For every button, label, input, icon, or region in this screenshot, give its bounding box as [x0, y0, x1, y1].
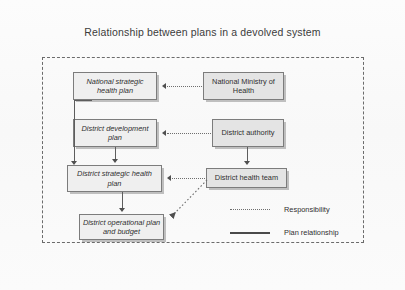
- legend-row-plan-relationship: Plan relationship: [230, 228, 339, 237]
- legend-label-responsibility: Responsibility: [284, 205, 330, 214]
- arrowhead-authority-to-health-team: [244, 161, 250, 165]
- node-label: District health team: [215, 173, 278, 182]
- edge-strategic-to-operational: [122, 192, 123, 208]
- node-district-health-team[interactable]: District health team: [206, 168, 287, 188]
- node-district-strategic-health-plan[interactable]: District strategic health plan: [67, 165, 162, 192]
- legend-row-responsibility: Responsibility: [230, 205, 330, 214]
- solid-line-icon: [230, 232, 270, 234]
- edge-left-spine: [74, 100, 75, 163]
- edge-health-team-to-strategic-plan: [172, 178, 205, 179]
- edge-authority-to-health-team: [247, 147, 248, 162]
- arrowhead-strategic-to-operational: [119, 208, 125, 212]
- edge-national-to-spine: [74, 100, 92, 101]
- node-label: National Ministry of Health: [206, 77, 281, 96]
- arrowhead-ministry-to-national-plan: [162, 83, 166, 89]
- arrowhead-development-to-strategic: [112, 159, 118, 163]
- node-label: District authority: [222, 128, 275, 137]
- node-label: District development plan: [76, 124, 154, 143]
- node-label: District strategic health plan: [70, 169, 159, 188]
- node-label: District operational plan and budget: [82, 218, 161, 237]
- legend-label-plan-relationship: Plan relationship: [284, 228, 339, 237]
- node-district-development-plan[interactable]: District development plan: [73, 119, 157, 147]
- node-label: National strategic health plan: [76, 77, 154, 96]
- edge-authority-to-development-plan: [167, 133, 211, 134]
- arrowhead-health-team-to-strategic-plan: [167, 175, 171, 181]
- node-national-ministry-of-health[interactable]: National Ministry of Health: [203, 72, 284, 100]
- arrowhead-spine-to-district-strategic: [71, 161, 77, 165]
- figure-title: Relationship between plans in a devolved…: [0, 26, 405, 38]
- edge-ministry-to-national-plan: [167, 86, 202, 87]
- node-district-operational-plan-and-budget[interactable]: District operational plan and budget: [79, 214, 164, 240]
- arrowhead-authority-to-development-plan: [162, 130, 166, 136]
- dotted-line-icon: [230, 209, 270, 210]
- node-district-authority[interactable]: District authority: [212, 119, 284, 147]
- node-national-strategic-health-plan[interactable]: National strategic health plan: [73, 72, 157, 100]
